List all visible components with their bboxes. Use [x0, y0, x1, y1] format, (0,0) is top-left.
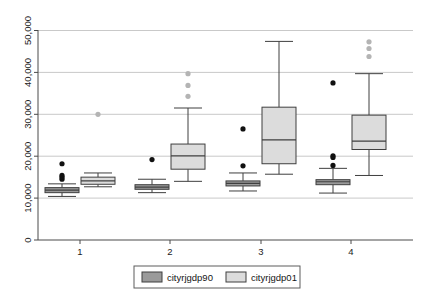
y-tick-label: 30,000: [22, 100, 33, 129]
outlier-point: [185, 71, 190, 76]
outlier-point: [59, 161, 64, 166]
boxes-group: [45, 39, 386, 196]
outlier-point: [95, 112, 100, 117]
box-rect: [171, 144, 205, 169]
legend-swatch-cityrjgdp01: [226, 272, 246, 282]
outlier-point: [366, 46, 371, 51]
x-tick-label: 3: [258, 246, 263, 257]
box-cityrjgdp90-4: [316, 80, 350, 193]
box-cityrjgdp01-3: [262, 41, 296, 174]
chart-legend: cityrjgdp90cityrjgdp01: [134, 266, 300, 288]
x-tick-label: 1: [77, 246, 82, 257]
y-tick-label: 40,000: [22, 58, 33, 87]
box-rect: [262, 107, 296, 164]
outlier-point: [366, 39, 371, 44]
y-tick-label: 50,000: [22, 16, 33, 45]
legend-label-cityrjgdp90: cityrjgdp90: [167, 272, 213, 283]
legend-swatch-cityrjgdp90: [142, 272, 162, 282]
legend-label-cityrjgdp01: cityrjgdp01: [251, 272, 297, 283]
plot-svg: 010,00020,00030,00040,00050,000 1234 cit…: [0, 0, 432, 302]
y-tick-label: 20,000: [22, 142, 33, 171]
outlier-point: [330, 163, 335, 168]
x-axis-ticks: [80, 240, 351, 244]
box-cityrjgdp01-2: [171, 71, 205, 181]
y-axis-ticks: [34, 31, 38, 241]
outlier-point: [149, 157, 154, 162]
y-axis-tick-labels: 010,00020,00030,00040,00050,000: [22, 16, 33, 243]
box-rect: [352, 115, 386, 149]
outlier-point: [185, 83, 190, 88]
box-cityrjgdp90-2: [135, 157, 169, 193]
box-cityrjgdp90-3: [226, 126, 260, 191]
outlier-point: [240, 126, 245, 131]
x-tick-label: 4: [348, 246, 353, 257]
outlier-point: [330, 80, 335, 85]
x-tick-label: 2: [167, 246, 172, 257]
box-cityrjgdp01-4: [352, 39, 386, 175]
box-cityrjgdp01-1: [81, 112, 115, 187]
outlier-point: [366, 54, 371, 59]
outlier-point: [240, 163, 245, 168]
box-cityrjgdp90-1: [45, 161, 79, 196]
outlier-point: [185, 94, 190, 99]
outlier-point: [330, 153, 335, 158]
y-tick-label: 0: [22, 237, 33, 242]
y-tick-label: 10,000: [22, 184, 33, 213]
boxplot-chart: 010,00020,00030,00040,00050,000 1234 cit…: [0, 0, 432, 302]
x-axis-tick-labels: 1234: [77, 246, 353, 257]
outlier-point: [59, 173, 64, 178]
